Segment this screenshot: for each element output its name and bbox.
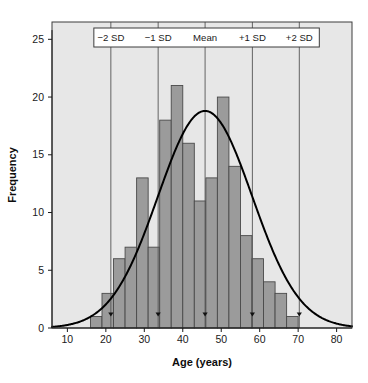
histogram-bar: [90, 316, 102, 328]
legend-label-5: +2 SD: [286, 32, 313, 43]
histogram-bar: [264, 282, 276, 328]
histogram-bar: [160, 120, 172, 328]
x-axis-tick-label: 30: [138, 333, 150, 345]
x-axis-title: Age (years): [172, 356, 232, 368]
x-axis-tick-label: 60: [254, 333, 266, 345]
y-axis-tick-label: 25: [32, 33, 44, 45]
y-axis-title: Frequency: [6, 146, 18, 203]
legend-label-1: −2 SD: [97, 32, 124, 43]
histogram-bar: [183, 143, 195, 328]
x-axis-tick-label: 40: [177, 333, 189, 345]
sd-legend-box: −2 SD−1 SDMean+1 SD+2 SD: [94, 28, 319, 47]
x-axis-tick-label: 20: [100, 333, 112, 345]
y-axis-tick-label: 0: [38, 322, 44, 334]
histogram-bar: [137, 178, 149, 328]
y-axis-tick-label: 15: [32, 148, 44, 160]
y-axis-tick-label: 20: [32, 91, 44, 103]
x-axis-tick-label: 70: [292, 333, 304, 345]
x-axis-tick-label: 10: [62, 333, 74, 345]
histogram-bar: [125, 247, 137, 328]
legend-label-4: +1 SD: [239, 32, 266, 43]
histogram-bar: [287, 316, 299, 328]
y-axis-tick-label: 10: [32, 206, 44, 218]
x-axis-tick-label: 80: [331, 333, 343, 345]
x-axis-tick-label: 50: [215, 333, 227, 345]
histogram-bar: [275, 293, 287, 328]
legend-label-3: Mean: [193, 32, 217, 43]
legend-label-2: −1 SD: [145, 32, 172, 43]
age-distribution-histogram: −2 SD−1 SDMean+1 SD+2 SD 0510152025 1020…: [0, 0, 368, 383]
histogram-bar: [229, 166, 241, 328]
histogram-bar: [171, 86, 183, 328]
histogram-bar: [194, 201, 206, 328]
histogram-bar: [240, 236, 252, 328]
histogram-bar: [252, 259, 264, 328]
y-axis-tick-label: 5: [38, 264, 44, 276]
histogram-figure: −2 SD−1 SDMean+1 SD+2 SD 0510152025 1020…: [0, 0, 368, 383]
histogram-bar: [206, 178, 218, 328]
